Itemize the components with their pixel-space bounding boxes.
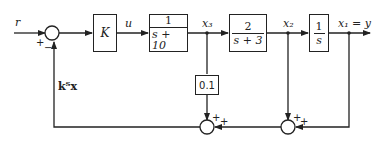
summing-junction-main bbox=[45, 26, 59, 40]
sign-right-plus-2: + bbox=[300, 116, 308, 127]
signal-output: x₁ = y bbox=[338, 17, 371, 30]
plant-block-2: 2 s + 3 bbox=[229, 14, 267, 52]
numerator: 1 bbox=[163, 15, 174, 26]
sign-main-minus: − bbox=[44, 42, 52, 53]
numerator: 1 bbox=[314, 21, 325, 32]
transfer-function-integrator: 1 s bbox=[314, 21, 325, 46]
signal-feedback: kᵀx bbox=[58, 80, 77, 93]
feedback-gain-label: 0.1 bbox=[199, 80, 215, 91]
denominator: s + 10 bbox=[150, 29, 187, 51]
sign-left-plus-2: + bbox=[220, 116, 228, 127]
feedback-gain-block: 0.1 bbox=[195, 75, 219, 95]
signal-r: r bbox=[15, 16, 20, 29]
signal-x2: x₂ bbox=[283, 17, 294, 30]
gain-label: K bbox=[101, 26, 110, 40]
denominator: s bbox=[314, 35, 324, 46]
signal-u: u bbox=[125, 17, 132, 30]
plant-block-1: 1 s + 10 bbox=[149, 14, 188, 52]
signal-x3: x₃ bbox=[202, 17, 213, 30]
denominator: s + 3 bbox=[232, 35, 265, 46]
gain-block-k: K bbox=[93, 14, 117, 52]
transfer-function-2: 2 s + 3 bbox=[232, 21, 265, 46]
transfer-function-1: 1 s + 10 bbox=[150, 15, 187, 51]
numerator: 2 bbox=[242, 21, 253, 32]
integrator-block: 1 s bbox=[309, 14, 329, 52]
